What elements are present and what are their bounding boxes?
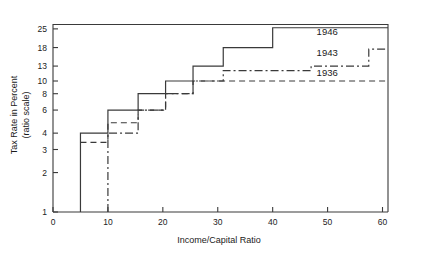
plot-border: [53, 25, 388, 213]
series-line-1946: [80, 28, 388, 212]
x-tick-label: 50: [323, 217, 333, 227]
y-axis-title-line2: (ratio scale): [21, 91, 31, 138]
y-tick-label: 3: [42, 145, 47, 155]
series-label-1943: 1943: [317, 47, 338, 58]
y-axis-title-line1: Tax Rate in Percent: [9, 75, 19, 154]
series-label-1946: 1946: [317, 26, 338, 37]
series-lines: [80, 28, 388, 212]
y-tick-label: 6: [42, 105, 47, 115]
x-tick-label: 0: [51, 217, 56, 227]
series-line-1943: [108, 49, 388, 212]
plot-frame: [53, 25, 388, 213]
x-tick-label: 40: [268, 217, 278, 227]
series-label-1936: 1936: [317, 67, 338, 78]
x-tick-label: 10: [103, 217, 113, 227]
y-tick-label: 13: [38, 61, 48, 71]
tax-rate-step-chart: 123468101318250102030405060 193619431946…: [0, 0, 430, 253]
series-labels: 193619431946: [317, 26, 338, 78]
y-tick-label: 18: [38, 43, 48, 53]
x-tick-label: 30: [213, 217, 223, 227]
x-tick-label: 20: [158, 217, 168, 227]
y-tick-label: 2: [42, 168, 47, 178]
x-axis-title: Income/Capital Ratio: [177, 235, 261, 245]
y-tick-label: 8: [42, 89, 47, 99]
y-tick-label: 25: [38, 24, 48, 34]
y-tick-label: 10: [38, 76, 48, 86]
y-tick-label: 1: [42, 207, 47, 217]
y-tick-label: 4: [42, 128, 47, 138]
x-tick-label: 60: [378, 217, 388, 227]
chart-container: 123468101318250102030405060 193619431946…: [0, 0, 430, 253]
